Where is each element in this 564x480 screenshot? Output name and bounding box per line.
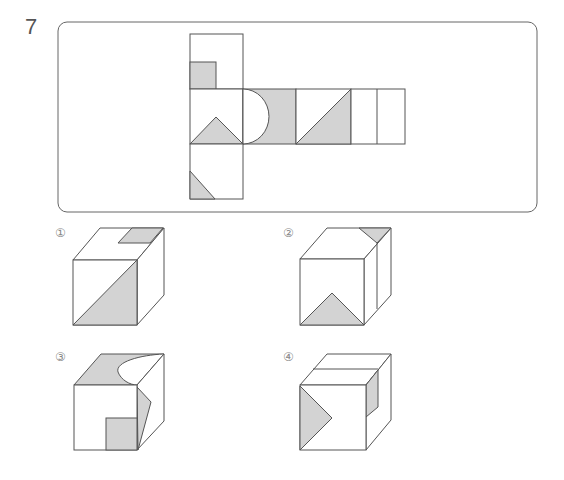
figure-canvas (0, 0, 564, 480)
option-3-cube[interactable] (74, 354, 164, 450)
option-3-label[interactable]: ③ (55, 350, 66, 364)
option-1-cube[interactable] (73, 228, 164, 325)
option-2-label[interactable]: ② (283, 226, 294, 240)
option-4-cube[interactable] (300, 354, 391, 450)
option-1-label[interactable]: ① (55, 226, 66, 240)
cube-net (190, 34, 405, 199)
option-4-label[interactable]: ④ (283, 350, 294, 364)
option-2-cube[interactable] (300, 228, 391, 325)
